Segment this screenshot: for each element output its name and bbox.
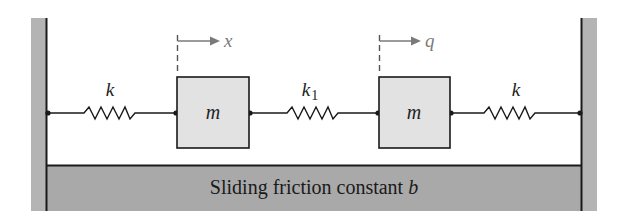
mass-1-label: m <box>206 101 220 123</box>
displacement-label-q: q <box>425 30 435 51</box>
spring-left <box>47 107 176 119</box>
displacement-arrow-x <box>178 35 221 74</box>
mass-spring-diagram: k k1 k m m x q Sliding friction constant… <box>0 0 627 224</box>
floor-caption: Sliding friction constant b <box>210 176 418 199</box>
floor-caption-symbol: b <box>408 176 418 198</box>
left-wall <box>31 18 46 211</box>
displacement-arrow-q <box>380 35 422 74</box>
mass-2-label: m <box>407 101 421 123</box>
spring-label-k-left: k <box>106 79 115 100</box>
joint <box>45 110 50 115</box>
spring-label-k1-main: k <box>302 79 311 100</box>
spring-label-k-right: k <box>512 79 521 100</box>
floor-caption-text: Sliding friction constant <box>210 176 408 199</box>
spring-label-k1-subscript: 1 <box>311 88 318 103</box>
displacement-label-x: x <box>223 30 233 51</box>
spring-right <box>451 107 581 119</box>
spring-label-k1: k1 <box>302 79 318 103</box>
spring-middle <box>250 107 378 119</box>
right-wall <box>582 18 597 211</box>
joint <box>577 110 582 115</box>
